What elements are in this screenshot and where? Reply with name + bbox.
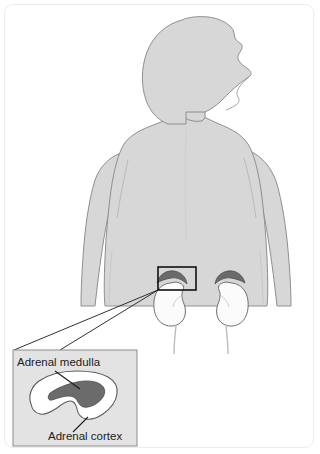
left-ureter bbox=[174, 325, 176, 354]
head-profile bbox=[142, 17, 251, 124]
right-kidney bbox=[217, 282, 249, 326]
anatomy-illustration: Adrenal medulla Adrenal cortex bbox=[0, 0, 320, 454]
adrenal-cortex-label: Adrenal cortex bbox=[48, 430, 122, 442]
body-silhouette bbox=[81, 17, 291, 306]
right-ureter bbox=[226, 325, 228, 354]
adrenal-gland-figure: Adrenal medulla Adrenal cortex bbox=[0, 0, 320, 454]
adrenal-medulla-label: Adrenal medulla bbox=[17, 356, 101, 368]
magnified-inset: Adrenal medulla Adrenal cortex bbox=[13, 350, 137, 446]
